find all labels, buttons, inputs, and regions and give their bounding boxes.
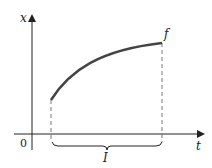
vertical-axis-label: x <box>20 11 27 25</box>
interval-label: I <box>102 151 108 165</box>
horizontal-axis-label: t <box>196 139 201 153</box>
function-graph: x t 0 f I <box>0 0 212 168</box>
interval-brace <box>52 142 162 150</box>
origin-label: 0 <box>20 137 27 150</box>
curve-label: f <box>163 27 171 41</box>
curve-f <box>51 43 162 100</box>
